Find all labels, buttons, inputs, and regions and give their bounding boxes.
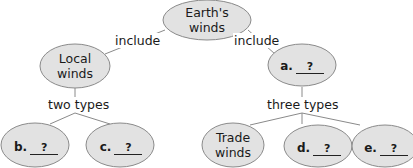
root-node: Earth's winds: [170, 3, 244, 37]
blank-b-letter: b.: [14, 140, 27, 155]
blank-d-node: d. ?: [288, 134, 350, 156]
blank-d-answer: ?: [313, 142, 341, 156]
blank-c-letter: c.: [100, 140, 112, 155]
blank-d-letter: d.: [297, 141, 310, 156]
blank-b-node: b. ?: [5, 133, 67, 155]
blank-e-answer: ?: [380, 142, 408, 156]
blank-e-letter: e.: [364, 141, 377, 156]
local-winds-node: Local winds: [45, 48, 105, 84]
link-three-types: three types: [266, 97, 339, 112]
blank-a-letter: a.: [280, 59, 293, 74]
link-include-left: include: [114, 33, 161, 48]
blank-e-node: e. ?: [355, 134, 413, 156]
blank-a-answer: ?: [296, 60, 324, 74]
link-include-right: include: [233, 33, 280, 48]
blank-a-node: a. ?: [270, 52, 334, 74]
blank-b-answer: ?: [30, 141, 58, 155]
trade-winds-node: Trade winds: [205, 127, 261, 163]
root-label: Earth's winds: [182, 5, 232, 35]
trade-winds-label: Trade winds: [212, 130, 254, 160]
link-two-types: two types: [47, 97, 110, 112]
blank-c-node: c. ?: [90, 133, 152, 155]
blank-c-answer: ?: [114, 141, 142, 155]
local-winds-label: Local winds: [55, 51, 95, 81]
